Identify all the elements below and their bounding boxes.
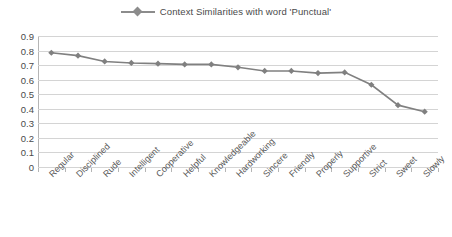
- data-point-marker: [128, 60, 134, 66]
- data-point-marker: [342, 69, 348, 75]
- y-axis-tick-label: 0.2: [0, 132, 34, 143]
- x-axis-labels: RegularDisciplinedRudeIntelligentCoopera…: [0, 172, 452, 236]
- y-axis-tick-label: 0: [0, 162, 34, 173]
- y-axis-tick-label: 0.4: [0, 103, 34, 114]
- y-axis-tick-label: 0.5: [0, 89, 34, 100]
- y-axis-tick-label: 0.3: [0, 118, 34, 129]
- data-point-marker: [262, 68, 268, 74]
- data-point-marker: [48, 50, 54, 56]
- chart-legend: Context Similarities with word 'Punctual…: [0, 6, 452, 17]
- data-point-marker: [235, 64, 241, 70]
- legend-series-label: Context Similarities with word 'Punctual…: [160, 6, 331, 17]
- y-axis-tick-label: 0.1: [0, 147, 34, 158]
- y-axis-tick-label: 0.7: [0, 60, 34, 71]
- data-point-marker: [102, 58, 108, 64]
- y-axis-tick-label: 0.6: [0, 74, 34, 85]
- data-point-marker: [182, 61, 188, 67]
- data-point-marker: [155, 61, 161, 67]
- y-axis-labels: 0.90.80.70.60.50.40.30.20.10: [0, 36, 34, 167]
- diamond-marker-icon: [121, 7, 155, 17]
- data-point-marker: [422, 109, 428, 115]
- data-point-marker: [288, 68, 294, 74]
- data-point-marker: [75, 53, 81, 59]
- y-axis-tick-label: 0.8: [0, 45, 34, 56]
- data-point-marker: [208, 61, 214, 67]
- data-point-marker: [315, 70, 321, 76]
- chart-container: Context Similarities with word 'Punctual…: [0, 0, 452, 237]
- y-axis-tick-label: 0.9: [0, 31, 34, 42]
